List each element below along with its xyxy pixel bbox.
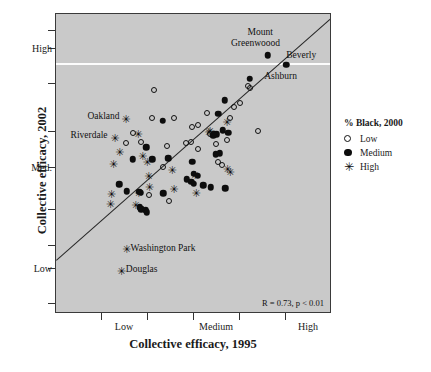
point-label: Washington Park <box>131 243 196 254</box>
data-point-high <box>106 200 115 209</box>
data-point-low <box>247 85 253 91</box>
x-axis-tick <box>285 313 286 320</box>
point-label: Mount <box>247 27 272 38</box>
data-point-medium <box>222 185 229 192</box>
open-circle-icon <box>344 135 360 142</box>
data-point-low <box>183 140 189 146</box>
data-point-high <box>117 266 126 275</box>
data-point-high <box>190 171 199 180</box>
data-point-high <box>134 189 143 198</box>
data-point-high <box>205 126 214 135</box>
data-point-low <box>189 124 195 130</box>
legend-label-high: High <box>360 162 379 172</box>
y-axis-tick <box>48 303 55 304</box>
data-point-medium <box>265 52 272 59</box>
data-point-medium <box>246 76 253 83</box>
data-point-medium <box>225 129 232 136</box>
data-point-high <box>121 114 130 123</box>
y-axis-tick <box>48 209 55 210</box>
x-axis-tick <box>147 313 148 320</box>
data-point-high <box>222 118 231 127</box>
data-point-low <box>160 164 166 170</box>
data-point-high <box>110 133 119 142</box>
data-point-medium <box>200 182 207 189</box>
legend-label-medium: Medium <box>360 148 392 158</box>
filled-circle-icon <box>344 149 360 157</box>
data-point-medium <box>212 151 219 158</box>
point-label: Greenwoood <box>231 38 280 49</box>
x-axis-tick-label-low: Low <box>115 321 133 332</box>
y-axis-tick <box>48 83 55 84</box>
data-point-medium <box>165 155 172 162</box>
data-point-low <box>195 146 201 152</box>
point-label: Ashburn <box>264 71 297 82</box>
data-point-low <box>171 115 177 121</box>
scatter-plot-figure: Collective efficacy, 2002 High Med. Low … <box>0 0 431 372</box>
x-axis-tick-label-medium: Medium <box>199 321 233 332</box>
data-point-low <box>237 100 243 106</box>
x-axis-title: Collective efficacy, 1995 <box>55 337 331 352</box>
x-axis-tick <box>193 313 194 320</box>
data-point-low <box>195 122 201 128</box>
legend: % Black, 2000 Low Medium ✳ High <box>344 118 430 174</box>
y-axis-tick <box>48 30 55 31</box>
x-axis-tick <box>101 313 102 320</box>
data-point-high <box>133 129 142 138</box>
data-point-medium <box>116 181 123 188</box>
data-point-low <box>164 143 170 149</box>
data-point-low <box>231 104 237 110</box>
star-icon: ✳ <box>344 162 360 172</box>
data-point-low <box>213 141 219 147</box>
correlation-annotation: R = 0.73, p < 0.01 <box>262 298 324 308</box>
data-point-medium <box>222 97 229 104</box>
y-axis-tick-label-low: Low <box>34 263 52 274</box>
data-point-low <box>224 137 230 143</box>
data-point-high <box>115 147 124 156</box>
y-axis-tick <box>48 245 55 246</box>
data-point-low <box>166 198 172 204</box>
x-axis-tick-label-high: High <box>298 321 318 332</box>
data-point-high <box>142 158 151 167</box>
legend-title: % Black, 2000 <box>344 118 430 128</box>
x-axis-tick <box>239 313 240 320</box>
data-point-medium <box>189 159 196 166</box>
data-point-medium <box>159 117 166 124</box>
y-axis-tick <box>48 131 55 132</box>
point-label: Beverly <box>286 50 316 61</box>
data-point-medium <box>144 209 151 216</box>
data-point-high <box>167 165 176 174</box>
data-point-low <box>149 115 155 121</box>
legend-item-high: ✳ High <box>344 160 430 173</box>
legend-label-low: Low <box>360 134 377 144</box>
point-label: Riverdale <box>71 130 108 141</box>
data-point-high <box>225 167 234 176</box>
data-point-low <box>204 110 210 116</box>
data-point-high <box>131 201 140 210</box>
legend-item-medium: Medium <box>344 146 430 159</box>
data-point-high <box>169 185 178 194</box>
y-axis-tick-label-med: Med. <box>31 162 52 173</box>
data-point-low <box>255 128 261 134</box>
y-axis-tick-label-high: High <box>32 43 52 54</box>
data-point-medium <box>208 184 215 191</box>
plot-area: MountGreenwooodBeverlyAshburnOaklandRive… <box>55 13 331 313</box>
point-label: Oakland <box>87 111 119 122</box>
data-point-medium <box>160 190 167 197</box>
data-point-low <box>151 87 157 93</box>
data-point-medium <box>130 156 137 163</box>
data-point-high <box>109 160 118 169</box>
data-point-high <box>145 182 154 191</box>
point-label: Douglas <box>126 264 158 275</box>
legend-item-low: Low <box>344 132 430 145</box>
data-point-medium <box>215 111 222 118</box>
data-point-medium <box>283 61 290 68</box>
data-point-medium <box>123 188 130 195</box>
data-point-high <box>192 188 201 197</box>
